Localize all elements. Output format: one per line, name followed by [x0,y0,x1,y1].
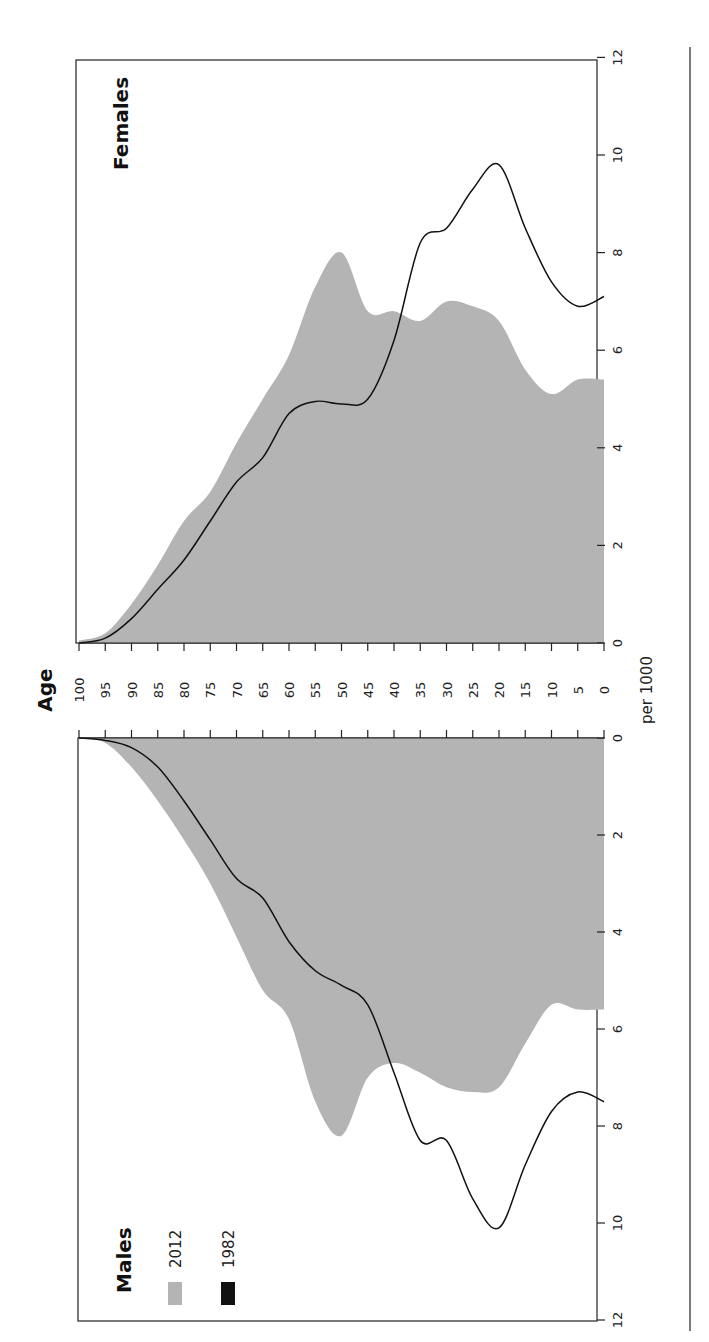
svg-text:85: 85 [151,682,166,699]
svg-text:5: 5 [571,686,586,694]
females-panel: 024681012 Females [76,49,625,651]
svg-text:10: 10 [610,1215,625,1232]
legend-1982-swatch [221,1282,235,1305]
age-axis-title: Age [33,668,57,711]
svg-text:2: 2 [610,541,625,549]
svg-text:6: 6 [610,1025,625,1033]
svg-text:60: 60 [282,682,297,699]
svg-text:10: 10 [545,682,560,699]
svg-text:45: 45 [361,682,376,699]
females-age-ticks [79,643,604,651]
svg-text:8: 8 [610,248,625,256]
svg-text:0: 0 [597,686,612,694]
svg-text:65: 65 [256,682,271,699]
males-2012-area [79,738,604,1136]
svg-text:40: 40 [387,682,402,699]
svg-text:12: 12 [610,49,625,66]
males-age-ticks [79,730,604,738]
svg-text:55: 55 [308,682,323,699]
svg-text:20: 20 [492,682,507,699]
population-pyramid-chart: 024681012 Females Age 100959085807570656… [0,0,709,1342]
svg-text:95: 95 [98,682,113,699]
svg-text:25: 25 [466,682,481,699]
per-1000-axis-title: per 1000 [638,656,656,724]
svg-text:8: 8 [610,1122,625,1130]
svg-text:10: 10 [610,147,625,164]
legend-2012-swatch [168,1282,182,1305]
males-label: Males [112,1227,136,1293]
svg-text:0: 0 [610,734,625,742]
svg-text:6: 6 [610,346,625,354]
age-axis: Age 100959085807570656055504540353025201… [33,656,656,724]
svg-text:4: 4 [610,928,625,936]
svg-text:4: 4 [610,444,625,452]
svg-text:2: 2 [610,831,625,839]
svg-text:80: 80 [177,682,192,699]
legend-2012-label: 2012 [167,1230,185,1268]
svg-text:15: 15 [518,682,533,699]
svg-text:100: 100 [72,678,87,703]
males-panel: 024681012 Males 2012 1982 [78,730,625,1328]
svg-text:0: 0 [610,639,625,647]
svg-text:30: 30 [440,682,455,699]
age-tick-labels: 1009590858075706560555045403530252015105… [72,678,612,703]
svg-text:70: 70 [230,682,245,699]
females-2012-area [79,252,604,643]
svg-text:75: 75 [203,682,218,699]
legend-1982-label: 1982 [220,1230,238,1268]
svg-text:35: 35 [413,682,428,699]
females-label: Females [109,77,133,170]
svg-text:90: 90 [125,682,140,699]
svg-text:12: 12 [610,1312,625,1329]
svg-text:50: 50 [335,682,350,699]
